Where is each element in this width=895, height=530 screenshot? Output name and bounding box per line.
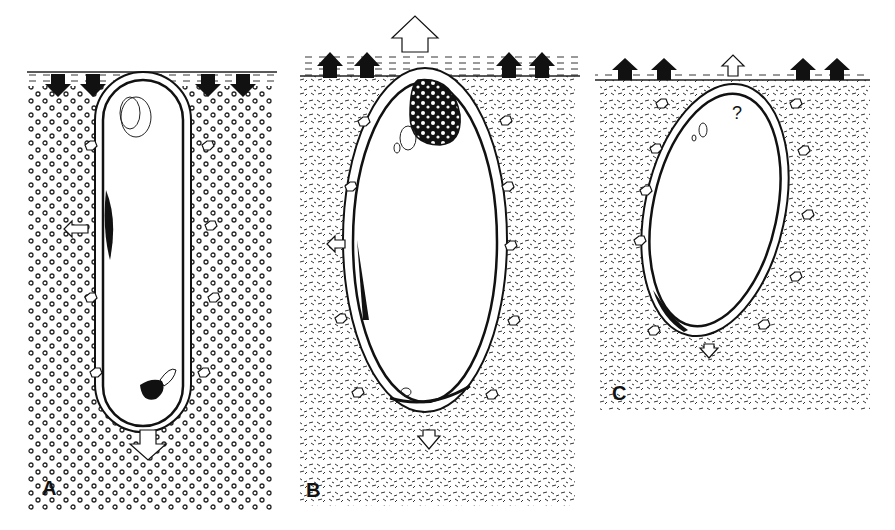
cell-inner-wall — [103, 80, 183, 426]
panel-c-drawing — [590, 0, 895, 530]
question-mark-annotation: ? — [732, 104, 742, 122]
panel-a: A — [0, 0, 290, 530]
panel-a-drawing — [0, 0, 290, 530]
panel-label-a: A — [42, 478, 56, 498]
panel-b-drawing — [290, 0, 590, 530]
panel-label-c: C — [612, 383, 626, 403]
panel-c: ? C — [590, 0, 895, 530]
big-up-arrow — [392, 16, 438, 52]
panel-b: B — [290, 0, 590, 530]
panel-label-b: B — [306, 480, 320, 500]
